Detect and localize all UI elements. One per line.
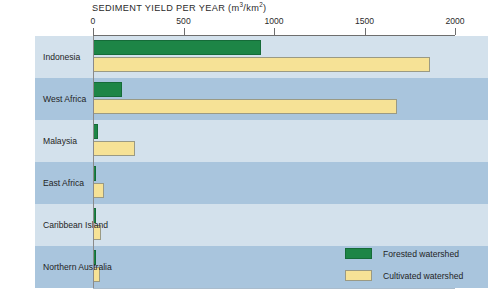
bar-group	[93, 162, 488, 204]
chart-title-main: SEDIMENT YIELD PER YEAR (m	[92, 3, 239, 13]
x-tick-mark-2000	[455, 28, 456, 35]
chart-title-mid: /km	[243, 3, 259, 13]
category-label-caribbean-island: Caribbean Island	[43, 220, 108, 230]
plot-area: IndonesiaWest AfricaMalaysiaEast AfricaC…	[35, 36, 488, 288]
category-label-indonesia: Indonesia	[43, 52, 80, 62]
chart-row: Indonesia	[35, 36, 488, 78]
x-tick-label-2000: 2000	[445, 16, 464, 26]
chart-row: Malaysia	[35, 120, 488, 162]
x-tick-mark-0	[93, 28, 94, 35]
chart-row: Caribbean Island	[35, 204, 488, 246]
bar-cultivated-watershed	[93, 183, 104, 198]
chart-title: SEDIMENT YIELD PER YEAR (m3/km2)	[92, 3, 266, 13]
chart-title-end: )	[263, 3, 266, 13]
x-tick-mark-1500	[365, 28, 366, 35]
x-tick-mark-500	[184, 28, 185, 35]
bar-group	[93, 120, 488, 162]
x-tick-label-1500: 1500	[355, 16, 374, 26]
bar-group	[93, 78, 488, 120]
x-axis-tick-labels: 0500100015002000	[0, 16, 488, 28]
category-label-east-africa: East Africa	[43, 178, 84, 188]
chart-row: West Africa	[35, 78, 488, 120]
chart-figure: SEDIMENT YIELD PER YEAR (m3/km2) 0500100…	[0, 0, 488, 306]
bar-cultivated-watershed	[93, 57, 430, 72]
chart-row: East Africa	[35, 162, 488, 204]
legend-label-forested: Forested watershed	[383, 249, 459, 259]
zero-baseline	[93, 36, 94, 288]
x-tick-label-1000: 1000	[264, 16, 283, 26]
bar-cultivated-watershed	[93, 99, 397, 114]
category-label-malaysia: Malaysia	[43, 136, 77, 146]
bar-cultivated-watershed	[93, 141, 135, 156]
chart-legend: Forested watershed Cultivated watershed	[345, 248, 463, 292]
bar-group	[93, 36, 488, 78]
legend-label-cultivated: Cultivated watershed	[383, 271, 463, 281]
legend-swatch-cultivated-icon	[345, 270, 372, 281]
bar-forested-watershed	[93, 40, 261, 55]
x-tick-label-0: 0	[91, 16, 96, 26]
x-tick-label-500: 500	[176, 16, 190, 26]
legend-item-forested: Forested watershed	[345, 248, 463, 259]
legend-item-cultivated: Cultivated watershed	[345, 270, 463, 281]
bar-forested-watershed	[93, 82, 122, 97]
category-label-west-africa: West Africa	[43, 94, 86, 104]
bar-group	[93, 204, 488, 246]
category-label-northern-australia: Northern Australia	[43, 262, 112, 272]
legend-swatch-forested-icon	[345, 248, 372, 259]
x-tick-mark-1000	[274, 28, 275, 35]
